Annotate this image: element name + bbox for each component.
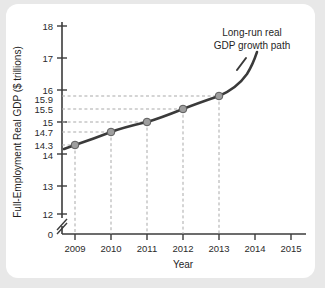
y-tick-label-18: 18	[42, 21, 53, 32]
long-run-growth-curve	[64, 52, 257, 149]
y-tick-label-17: 17	[42, 53, 53, 64]
annotation-leader-line	[237, 58, 246, 70]
annotation-line-1: Long-run real	[222, 27, 281, 38]
y-tick-label-14: 14	[42, 150, 53, 161]
data-point-2013	[215, 92, 223, 100]
x-tick-label-2014: 2014	[244, 243, 265, 254]
y-tick-label-15-5: 15.5	[35, 104, 54, 115]
x-tick-label-2012: 2012	[172, 243, 193, 254]
y-tick-label-12: 12	[42, 209, 53, 220]
x-tick-label-2009: 2009	[64, 243, 85, 254]
y-tick-label-13: 13	[42, 181, 53, 192]
x-tick-label-2011: 2011	[137, 243, 157, 254]
y-axis-title: Full-Employment Real GDP ($ trillions)	[12, 46, 23, 218]
x-tick-label-2013: 2013	[208, 243, 229, 254]
x-tick-label-2015: 2015	[280, 243, 301, 254]
x-axis-title: Year	[173, 259, 194, 270]
y-tick-label-14-7: 14.7	[35, 127, 54, 138]
chart-plot-area: Full-Employment Real GDP ($ trillions) 1…	[6, 4, 315, 278]
data-point-2012	[179, 105, 187, 113]
data-point-2009	[71, 141, 79, 149]
data-point-2011	[143, 118, 151, 126]
x-tick-label-2010: 2010	[100, 243, 121, 254]
annotation-line-2: GDP growth path	[214, 40, 291, 51]
gdp-growth-line-chart: Full-Employment Real GDP ($ trillions) 1…	[6, 4, 315, 278]
data-point-2010	[107, 128, 115, 136]
y-tick-label-0: 0	[48, 229, 53, 240]
figure-card: Full-Employment Real GDP ($ trillions) 1…	[6, 4, 315, 278]
